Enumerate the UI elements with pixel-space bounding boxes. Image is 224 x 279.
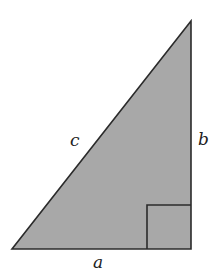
- label-leg-b: b: [198, 129, 209, 149]
- right-triangle-diagram: c b a: [0, 0, 224, 279]
- label-leg-a: a: [93, 252, 103, 272]
- triangle-shape: [12, 21, 191, 249]
- label-hypotenuse-c: c: [70, 130, 80, 150]
